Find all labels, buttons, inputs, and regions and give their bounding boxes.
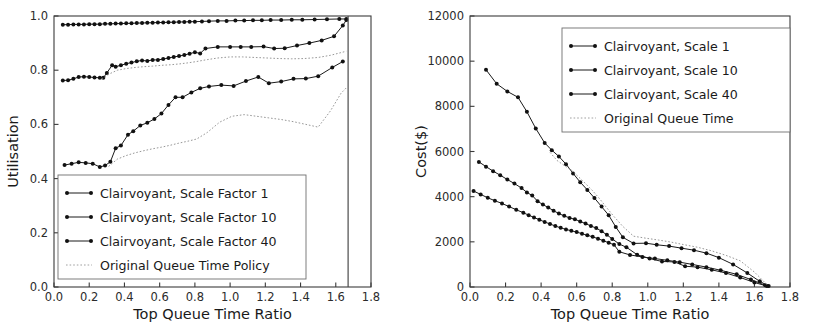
series-marker (172, 55, 176, 59)
series-marker (304, 77, 308, 81)
series-marker (140, 21, 144, 25)
chart-panel-cost: 0.00.20.40.60.81.01.21.41.61.80200040006… (412, 0, 824, 333)
series-marker (61, 79, 65, 83)
series-marker (82, 75, 86, 79)
series-line (109, 88, 347, 167)
series-marker (71, 77, 75, 81)
series-marker (628, 253, 632, 257)
series-marker (87, 75, 91, 79)
legend-sample-marker (65, 215, 69, 219)
series-marker (341, 60, 345, 64)
series-marker (316, 74, 320, 78)
series-marker (564, 227, 568, 231)
legend-sample-marker (65, 239, 69, 243)
series-marker (77, 160, 81, 164)
series-marker (580, 232, 584, 236)
series-marker (84, 161, 88, 165)
series-marker (249, 45, 253, 49)
series-marker (129, 61, 133, 65)
series-marker (108, 22, 112, 26)
series-marker (98, 165, 102, 169)
series-marker (704, 251, 708, 255)
series-marker (307, 41, 311, 45)
series-marker (93, 22, 97, 26)
series-marker (505, 178, 509, 182)
x-ticklabel: 1.4 (291, 290, 309, 304)
series-marker (232, 84, 236, 88)
series-marker (614, 225, 618, 229)
x-ticklabel: 0.4 (532, 290, 550, 304)
y-ticklabel: 0.4 (30, 172, 48, 186)
series-marker (188, 20, 192, 24)
series-marker (98, 76, 102, 80)
y-ticklabel: 4000 (435, 190, 464, 204)
series-marker (552, 209, 556, 213)
series-marker (262, 45, 266, 49)
y-ticklabel: 0.8 (30, 63, 48, 77)
legend-sample-marker (65, 191, 69, 195)
series-marker (269, 18, 273, 22)
series-marker (584, 222, 588, 226)
series-marker (300, 18, 304, 22)
x-axis-title: Top Queue Time Ratio (132, 306, 292, 322)
series-marker (521, 211, 525, 215)
series-marker (145, 121, 149, 125)
series-marker (71, 22, 75, 26)
series-marker (313, 18, 317, 22)
legend-label: Original Queue Time Policy (100, 258, 270, 273)
x-ticklabel: 1.0 (639, 290, 657, 304)
series-marker (472, 189, 476, 193)
series-marker (589, 224, 593, 228)
legend-label: Clairvoyant, Scale Factor 40 (100, 234, 276, 249)
series-marker (505, 89, 509, 93)
series-marker (124, 62, 128, 66)
series-marker (680, 246, 684, 250)
series-marker (624, 245, 628, 249)
series-marker (129, 21, 133, 25)
series-marker (216, 45, 220, 49)
series-marker (495, 82, 499, 86)
x-ticklabel: 0.8 (603, 290, 621, 304)
series-marker (546, 206, 550, 210)
series-marker (553, 224, 557, 228)
series-marker (124, 21, 128, 25)
series-marker (131, 129, 135, 133)
series-marker (617, 250, 621, 254)
series-marker (225, 19, 229, 23)
series-marker (181, 95, 185, 99)
series-marker (228, 45, 232, 49)
legend-sample-marker (89, 191, 93, 195)
series-marker (514, 208, 518, 212)
legend-sample-marker (89, 215, 93, 219)
series-marker (498, 173, 502, 177)
series-marker (207, 19, 211, 23)
series-marker (573, 217, 577, 221)
series-marker (683, 264, 687, 268)
series-marker (267, 81, 271, 85)
series-marker (242, 19, 246, 23)
series-marker (182, 53, 186, 57)
series-marker (152, 117, 156, 121)
series-marker (87, 22, 91, 26)
series-marker (564, 162, 568, 166)
series-marker (745, 271, 749, 275)
series-marker (479, 192, 483, 196)
series-marker (536, 199, 540, 203)
series-marker (292, 77, 296, 81)
series-marker (207, 84, 211, 88)
legend-label: Clairvoyant, Scale 1 (604, 39, 730, 54)
series-marker (543, 220, 547, 224)
series-marker (610, 237, 614, 241)
series-marker (594, 226, 598, 230)
series-marker (690, 262, 694, 266)
series-marker (161, 57, 165, 61)
x-ticklabel: 1.8 (362, 290, 380, 304)
series-marker (678, 260, 682, 264)
y-ticklabel: 6000 (435, 145, 464, 159)
series-marker (200, 19, 204, 23)
series-marker (568, 216, 572, 220)
series-marker (91, 162, 95, 166)
series-marker (527, 213, 531, 217)
series-marker (177, 20, 181, 24)
series-marker (550, 148, 554, 152)
